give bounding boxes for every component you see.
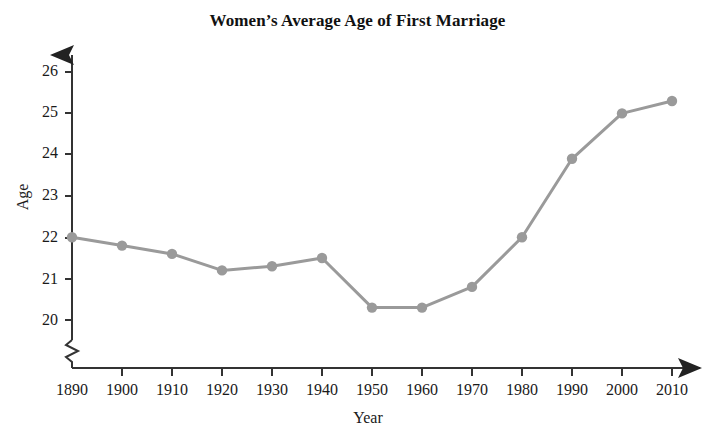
- data-point: [667, 96, 677, 106]
- chart-container: Women’s Average Age of First Marriage Ag…: [0, 0, 715, 447]
- data-point: [267, 261, 277, 271]
- data-point: [517, 232, 527, 242]
- data-point: [617, 108, 627, 118]
- data-point: [67, 232, 77, 242]
- y-axis-ticks: [65, 72, 72, 320]
- data-point: [167, 249, 177, 259]
- plot-area: [0, 0, 715, 447]
- data-point: [467, 282, 477, 292]
- data-series-line: [72, 101, 672, 308]
- x-axis-ticks: [122, 368, 672, 376]
- data-point: [367, 302, 377, 312]
- data-point: [317, 253, 327, 263]
- y-axis-break-icon: [66, 340, 78, 368]
- data-point: [217, 265, 227, 275]
- data-point-markers: [67, 96, 677, 313]
- data-point: [417, 302, 427, 312]
- data-point: [117, 240, 127, 250]
- data-point: [567, 154, 577, 164]
